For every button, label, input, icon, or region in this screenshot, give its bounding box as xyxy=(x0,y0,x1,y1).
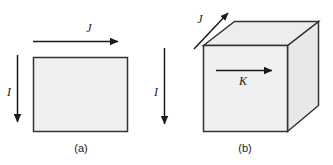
caption-panel-a: (a) xyxy=(74,142,87,154)
label-k-panel-b: K xyxy=(238,74,248,88)
caption-panel-b: (b) xyxy=(238,142,251,154)
label-j-panel-b: J xyxy=(197,12,203,26)
label-j-panel-a: J xyxy=(86,21,92,35)
label-i-panel-a: I xyxy=(6,85,12,99)
figure-container: J I I J K (a) (b) xyxy=(0,0,333,165)
current-density-diagram: J I I J K (a) (b) xyxy=(0,0,333,165)
panel-b xyxy=(165,13,319,132)
panel-a xyxy=(18,42,128,132)
cube-front-face xyxy=(204,46,288,132)
rectangle-sheet-a xyxy=(34,58,128,132)
label-i-panel-b: I xyxy=(153,85,159,99)
